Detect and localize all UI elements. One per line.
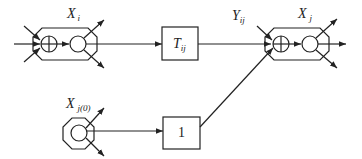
node-state-icon <box>302 36 318 52</box>
node-xj-label: Xj <box>297 6 313 23</box>
edge-one-to-xj <box>200 48 273 127</box>
node-state-icon <box>71 125 87 141</box>
node-xj0-label: Xj(0) <box>65 96 91 113</box>
node-xi-label: Xi <box>66 6 81 23</box>
edge-yij-label: Yij <box>232 8 245 25</box>
output-arrow-bottom <box>86 138 104 156</box>
block-one-label: 1 <box>178 125 185 140</box>
flow-diagram: Xi Tij Yij Xj Xj(0) 1 <box>0 0 362 159</box>
node-xj0 <box>63 108 104 156</box>
block-one: 1 <box>163 117 200 149</box>
block-tij: Tij <box>162 27 198 60</box>
output-arrow-bottom <box>84 50 104 68</box>
node-xj0-outline <box>63 118 94 149</box>
node-state-icon <box>70 36 86 52</box>
output-arrow-top <box>84 20 104 38</box>
